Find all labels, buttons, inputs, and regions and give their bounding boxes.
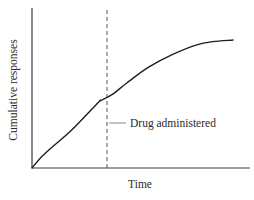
cumulative-response-chart: Drug administered Time Cumulative respon… bbox=[0, 0, 254, 200]
plot-area bbox=[32, 8, 250, 168]
cumulative-response-curve bbox=[32, 40, 233, 168]
annotation-label: Drug administered bbox=[130, 117, 216, 130]
x-axis-label: Time bbox=[128, 178, 152, 190]
y-axis-label: Cumulative responses bbox=[7, 39, 20, 141]
